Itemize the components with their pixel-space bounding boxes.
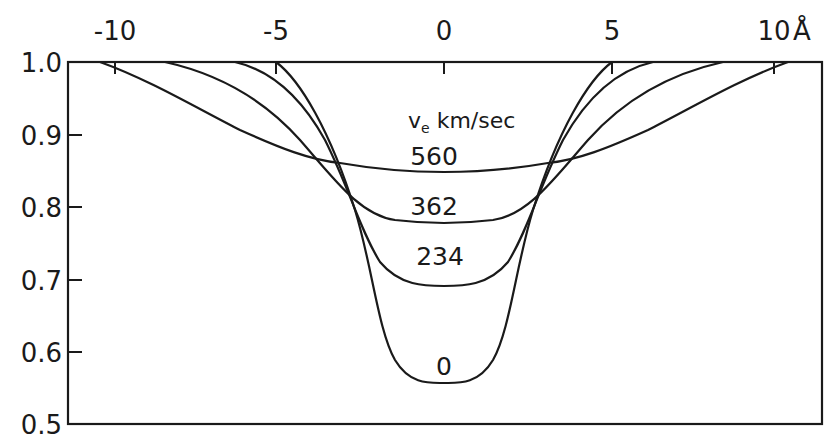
x-tick-label: -10 — [94, 16, 136, 46]
legend-title: ve km/sec — [408, 108, 515, 136]
legend-title-subscript: e — [421, 120, 430, 136]
y-tick-label: 0.6 — [21, 338, 62, 368]
y-tick-label: 0.5 — [21, 410, 62, 440]
y-tick-label: 1.0 — [21, 48, 62, 78]
y-tick-label: 0.9 — [21, 121, 62, 151]
legend-title-units: km/sec — [430, 108, 516, 133]
x-tick-label: 5 — [604, 16, 621, 46]
y-tick-label: 0.8 — [21, 193, 62, 223]
legend-title-v: v — [408, 108, 421, 133]
x-axis-unit-label: Å — [793, 15, 811, 46]
svg-text:ve km/sec: ve km/sec — [408, 108, 515, 136]
y-axis-tick-labels: 1.0 0.9 0.8 0.7 0.6 0.5 — [21, 48, 62, 440]
x-axis-tick-labels: -10 -5 0 5 10 Å — [94, 15, 811, 46]
curve-label-234: 234 — [416, 242, 464, 271]
line-profile-chart: -10 -5 0 5 10 Å 1.0 0.9 0.8 0.7 0.6 0.5 … — [0, 0, 836, 443]
x-tick-label: 0 — [436, 16, 453, 46]
curve-label-0: 0 — [436, 352, 452, 381]
y-axis-ticks — [68, 135, 82, 352]
x-tick-label: -5 — [263, 16, 289, 46]
curve-label-560: 560 — [410, 142, 458, 171]
x-tick-label: 10 — [757, 16, 790, 46]
x-axis-ticks — [115, 62, 774, 74]
curve-label-362: 362 — [410, 192, 458, 221]
y-tick-label: 0.7 — [21, 266, 62, 296]
